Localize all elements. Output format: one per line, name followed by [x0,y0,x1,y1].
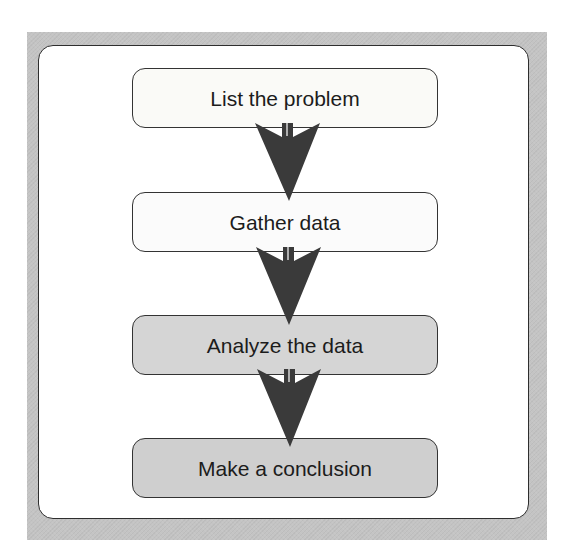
step-label: Make a conclusion [198,457,372,481]
down-arrow-icon [257,369,323,449]
step-label: List the problem [210,87,359,111]
step-label: Analyze the data [207,334,363,358]
step-label: Gather data [230,211,341,235]
step-list-the-problem: List the problem [132,68,438,128]
down-arrow-icon [256,247,322,327]
down-arrow-icon [255,123,321,203]
